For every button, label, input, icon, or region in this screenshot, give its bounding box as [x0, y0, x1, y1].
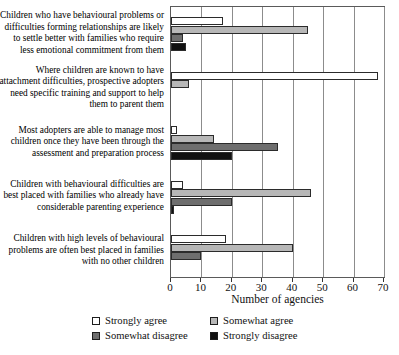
tick-label-20: 20	[225, 281, 236, 293]
bar-strongly-disagree-group-4	[171, 206, 174, 214]
bar-somewhat-agree-group-3	[171, 135, 214, 143]
legend-item-somewhat-disagree: Somewhat disagree	[92, 330, 210, 341]
bar-strongly-disagree-group-3	[171, 152, 232, 160]
bar-strongly-agree-group-5	[171, 235, 226, 243]
bar-strongly-agree-group-4	[171, 181, 183, 189]
category-label-4: Children with behavioural difficulties a…	[0, 179, 164, 214]
bar-strongly-disagree-group-1	[171, 43, 186, 51]
bar-somewhat-agree-group-1	[171, 26, 308, 34]
legend-item-strongly-disagree: Strongly disagree	[210, 330, 340, 341]
legend-label-strongly-disagree: Strongly disagree	[223, 330, 297, 341]
bar-somewhat-disagree-group-3	[171, 143, 278, 151]
category-label-3: Most adopters are able to manage most ch…	[0, 125, 164, 160]
tick-label-0: 0	[167, 281, 173, 293]
legend-item-somewhat-agree: Somewhat agree	[210, 315, 340, 326]
bar-strongly-agree-group-2	[171, 72, 378, 80]
tick-label-50: 50	[317, 281, 328, 293]
bar-chart: Children who have behavioural problems o…	[0, 0, 399, 355]
legend-swatch-strongly-disagree	[210, 332, 218, 340]
bar-somewhat-disagree-group-4	[171, 198, 232, 206]
bar-somewhat-agree-group-5	[171, 244, 293, 252]
legend-label-somewhat-agree: Somewhat agree	[223, 315, 293, 326]
bar-somewhat-agree-group-2	[171, 80, 189, 88]
bar-group-4	[171, 181, 384, 215]
legend-label-somewhat-disagree: Somewhat disagree	[105, 330, 188, 341]
category-label-1: Children who have behavioural problems o…	[0, 10, 164, 56]
bar-group-2	[171, 72, 384, 106]
bar-group-5	[171, 235, 384, 269]
gridline-70	[384, 7, 385, 277]
chart-legend: Strongly agreeSomewhat agreeSomewhat dis…	[92, 315, 340, 341]
tick-label-40: 40	[286, 281, 297, 293]
tick-label-70: 70	[378, 281, 389, 293]
legend-label-strongly-agree: Strongly agree	[105, 315, 167, 326]
bar-group-3	[171, 126, 384, 160]
tick-label-60: 60	[347, 281, 358, 293]
legend-item-strongly-agree: Strongly agree	[92, 315, 210, 326]
plot-wrapper: Children who have behavioural problems o…	[0, 0, 399, 290]
category-labels: Children who have behavioural problems o…	[0, 0, 168, 290]
x-axis-title: Number of agencies	[170, 293, 385, 305]
category-label-5: Children with high levels of behavioural…	[0, 233, 164, 268]
plot-area	[170, 6, 385, 278]
bar-somewhat-disagree-group-1	[171, 34, 183, 42]
bar-strongly-agree-group-1	[171, 17, 223, 25]
tick-label-10: 10	[195, 281, 206, 293]
bar-somewhat-disagree-group-5	[171, 252, 201, 260]
bar-somewhat-agree-group-4	[171, 189, 311, 197]
tick-label-30: 30	[256, 281, 267, 293]
legend-swatch-strongly-agree	[92, 317, 100, 325]
bar-group-1	[171, 17, 384, 51]
category-label-2: Where children are known to have attachm…	[0, 65, 164, 111]
legend-swatch-somewhat-agree	[210, 317, 218, 325]
bar-strongly-agree-group-3	[171, 126, 177, 134]
legend-swatch-somewhat-disagree	[92, 332, 100, 340]
x-axis-ticks: 010203040506070	[170, 278, 385, 294]
